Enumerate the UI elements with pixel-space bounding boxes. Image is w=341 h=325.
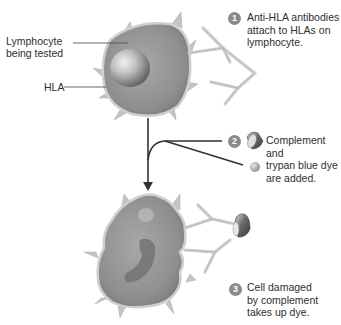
step-3-badge: 3 xyxy=(229,283,242,296)
hla-label: HLA xyxy=(44,81,64,93)
step-1-badge: 1 xyxy=(228,12,241,25)
step-1-text: Anti-HLA antibodies attach to HLAs on ly… xyxy=(247,11,339,49)
nucleus xyxy=(110,49,150,87)
lymphocyte-cell xyxy=(93,12,198,120)
step-3-text: Cell damaged by complement takes up dye. xyxy=(247,281,318,319)
damaged-cell xyxy=(84,194,196,318)
complement-bound-icon xyxy=(233,214,250,237)
process-arrow xyxy=(148,118,243,184)
complement-cup-icon xyxy=(246,132,263,149)
trypan-blue-dye-sphere-icon xyxy=(250,162,260,172)
arrowhead xyxy=(143,182,153,191)
step-2-text: Complement and trypan blue dye are added… xyxy=(266,134,338,184)
lymphocyte-label: Lymphocyte being tested xyxy=(6,35,63,59)
step-2-badge: 2 xyxy=(228,135,241,148)
